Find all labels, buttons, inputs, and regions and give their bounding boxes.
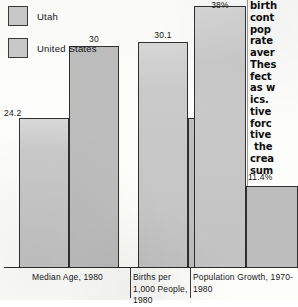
bar-utah-population-growth (194, 6, 246, 268)
body-text-line: as w (250, 82, 298, 94)
chart-legend: Utah United States (8, 4, 97, 68)
body-text-line: fect (250, 71, 298, 83)
legend-swatch-united-states (8, 38, 28, 58)
axis-label-births: Births per 1,000 People, 1980 (133, 272, 189, 307)
bar-value-utah-population-growth: 38% (194, 0, 246, 10)
body-text-line: tive (250, 129, 298, 141)
body-text-line: tive (250, 106, 298, 118)
axis-label-median-age-text: Median Age, 1980 (32, 272, 103, 282)
body-text-column: birth cont pop rate aver Thes fect as w … (250, 0, 298, 300)
body-text-line: forc (250, 118, 298, 130)
body-text-line: sum (250, 165, 298, 177)
body-text-line: rate (250, 35, 298, 47)
axis-divider-1 (130, 268, 131, 298)
body-text-line: birth (250, 0, 298, 12)
legend-item-utah: Utah (8, 4, 97, 28)
axis-divider-2 (190, 268, 191, 298)
axis-label-births-text: Births per 1,000 People, 1980 (133, 272, 187, 305)
body-text-line: cont (250, 12, 298, 24)
body-text-line: Thes (250, 59, 298, 71)
column-rule (247, 0, 248, 186)
body-text-line: the (250, 141, 298, 153)
body-text-line: aver (250, 47, 298, 59)
legend-item-united-states: United States (8, 36, 97, 60)
body-text-line: crea (250, 153, 298, 165)
axis-baseline (4, 267, 252, 268)
legend-swatch-utah (8, 6, 28, 26)
body-text-line: ics. (250, 94, 298, 106)
axis-label-median-age: Median Age, 1980 (32, 272, 128, 284)
legend-label-united-states: United States (37, 43, 97, 54)
legend-label-utah: Utah (37, 11, 58, 22)
body-text-line: pop (250, 24, 298, 36)
